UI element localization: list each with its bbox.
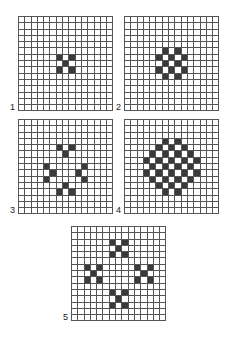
grid-panel-5 xyxy=(71,226,166,321)
grid-panel-4 xyxy=(124,119,219,214)
grid-cell xyxy=(213,105,219,111)
panel-label: 1 xyxy=(10,103,15,112)
grid-cell xyxy=(107,105,113,111)
panel-label: 4 xyxy=(116,206,121,215)
grid-panel-1 xyxy=(18,16,113,111)
grid-cell xyxy=(160,315,166,321)
panel-label: 3 xyxy=(10,206,15,215)
panel-label: 2 xyxy=(116,103,121,112)
panel-label: 5 xyxy=(63,313,68,322)
grid-panel-2 xyxy=(124,16,219,111)
grid-panel-3 xyxy=(18,119,113,214)
grid-cell xyxy=(213,208,219,214)
grid-cell xyxy=(107,208,113,214)
